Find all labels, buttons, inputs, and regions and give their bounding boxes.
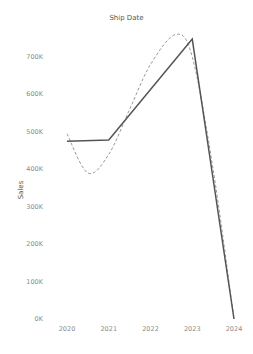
y-tick-label: 500K xyxy=(26,128,43,136)
trend-line xyxy=(67,34,234,319)
y-tick-label: 100K xyxy=(26,278,43,286)
x-axis-ticks: 20202021202220232024 xyxy=(59,325,243,333)
y-tick-label: 300K xyxy=(26,203,43,211)
sales-line xyxy=(67,39,234,319)
line-chart: 0K100K200K300K400K500K600K700K 202020212… xyxy=(0,0,253,354)
x-tick-label: 2021 xyxy=(100,325,117,333)
y-tick-label: 200K xyxy=(26,240,43,248)
y-tick-label: 400K xyxy=(26,165,43,173)
y-tick-label: 600K xyxy=(26,90,43,98)
x-tick-label: 2020 xyxy=(59,325,76,333)
x-tick-label: 2023 xyxy=(184,325,201,333)
y-tick-label: 0K xyxy=(35,315,44,323)
x-tick-label: 2022 xyxy=(142,325,159,333)
y-axis-ticks: 0K100K200K300K400K500K600K700K xyxy=(26,53,43,323)
y-tick-label: 700K xyxy=(26,53,43,61)
x-tick-label: 2024 xyxy=(226,325,243,333)
